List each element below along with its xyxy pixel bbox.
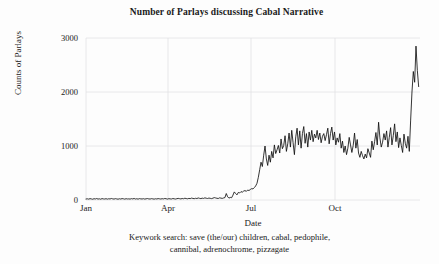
x-tick-jul: Jul: [246, 203, 257, 213]
x-tick-jan: Jan: [80, 203, 92, 213]
y-tick-1000: 1000: [32, 141, 78, 151]
y-tick-0: 0: [32, 195, 78, 205]
caption-line-2: cannibal, adrenochrome, pizzagate: [20, 243, 439, 255]
y-axis-ticks: 3000 2000 1000 0: [28, 0, 78, 264]
caption-line-1: Keywork search: save (the/our) children,…: [20, 231, 439, 243]
y-tick-2000: 2000: [32, 87, 78, 97]
plot-area: [86, 38, 420, 200]
y-axis-label: Counts of Parlays: [13, 8, 23, 118]
y-tick-3000: 3000: [32, 33, 78, 43]
x-axis-label: Date: [86, 218, 420, 228]
data-series-line: [86, 46, 419, 199]
chart-figure: Number of Parlays discussing Cabal Narra…: [0, 0, 439, 264]
x-tick-apr: Apr: [161, 203, 175, 213]
chart-caption: Keywork search: save (the/our) children,…: [0, 231, 439, 255]
x-tick-oct: Oct: [328, 203, 341, 213]
gridlines: [86, 38, 420, 200]
